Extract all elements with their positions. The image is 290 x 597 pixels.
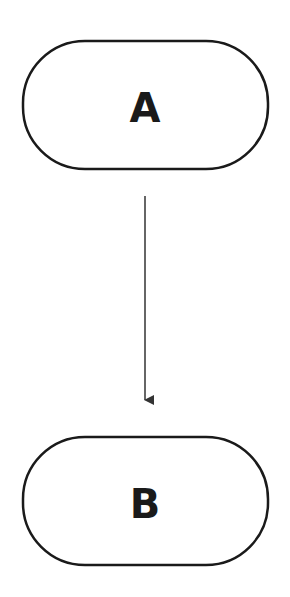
node-b: B <box>23 437 268 565</box>
node-b-label: B <box>130 481 161 527</box>
node-a-label: A <box>130 85 161 131</box>
node-a: A <box>23 41 268 169</box>
flowchart-diagram: A B <box>0 0 290 597</box>
